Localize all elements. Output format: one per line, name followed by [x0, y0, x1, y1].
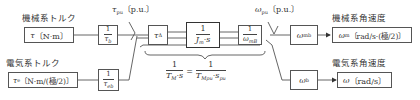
time-constant-equation: 1TM·s = 1TMpu·spu [166, 61, 226, 81]
electrical-speed-unit: 〔rad/s〕 [350, 75, 387, 86]
tau-pu-label: τpu〔p.u.〕 [112, 3, 154, 15]
inv-tau-b-block: 1τb [98, 25, 118, 45]
inertia-den-rest: ·s [204, 35, 211, 44]
mechanical-speed-box: ωm〔rad/s·(極/2)〕 [332, 27, 412, 43]
inertia-block: 1Jm·s [186, 22, 220, 48]
omega-mb-sub: mb [303, 32, 311, 38]
electrical-speed-box: ω〔rad/s〕 [337, 72, 392, 88]
mechanical-torque-label: 機械系トルク [22, 11, 76, 23]
electrical-torque-unit: 〔N·m/(極/2)〕 [20, 75, 73, 86]
inv-tau-eb-block: 1τeb [98, 69, 119, 91]
electrical-torque-label: 電気系トルク [6, 56, 60, 68]
inv-omega-mb-num: 1 [248, 26, 252, 34]
mechanical-speed-unit: 〔rad/s·(極/2)〕 [350, 30, 406, 41]
inv-omega-mb-sub: mB [249, 38, 257, 44]
tau-pu-unit: 〔p.u.〕 [123, 5, 154, 14]
eq-rhs-sub2: pu [219, 75, 225, 81]
inv-tau-b-sub: b [108, 38, 111, 44]
mechanical-torque-box: τ〔N·m〕 [24, 27, 74, 43]
inv-tau-eb-num: 1 [106, 71, 110, 79]
eq-lhs-num: 1 [172, 61, 177, 70]
omega-pu-unit: 〔p.u.〕 [268, 5, 299, 14]
omega-b-block: ωb [290, 70, 318, 90]
inertia-num: 1 [200, 25, 205, 34]
eq-rhs-sub: Mpu [201, 75, 213, 81]
omega-b-sub: b [306, 77, 309, 83]
inv-tau-b-num: 1 [106, 26, 110, 34]
omega-pu-label: ωpu〔p.u.〕 [255, 3, 299, 15]
eq-rhs-num: 1 [208, 61, 213, 70]
electrical-torque-box: τe〔N·m/(極/2)〕 [8, 72, 78, 88]
inv-tau-eb-sub: eb [107, 83, 113, 89]
tau-delta-block: τΔ [148, 25, 168, 45]
electrical-speed-label: 電気系角速度 [332, 56, 386, 68]
mechanical-speed-label: 機械系角速度 [332, 11, 386, 23]
omega-mb-block: ωmb [290, 25, 318, 45]
tau-delta-sub: Δ [158, 32, 162, 38]
inv-omega-mb-block: 1ωmB [238, 25, 262, 45]
mechanical-torque-unit: 〔N·m〕 [35, 30, 68, 41]
eq-lhs-rest: ·s [176, 71, 183, 80]
eq-sign: = [186, 67, 193, 76]
